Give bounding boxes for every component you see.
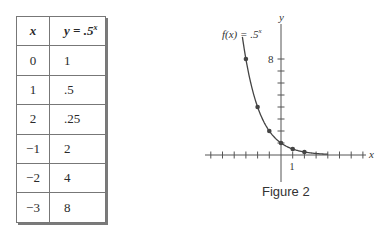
exponential-graph: y x 8 1 f(x) = .5x (0, 0, 392, 230)
y-tick-label-8: 8 (268, 53, 274, 65)
data-point (255, 105, 260, 110)
data-points (244, 57, 307, 155)
data-point (244, 57, 249, 62)
y-axis-label: y (278, 11, 284, 23)
data-point (279, 141, 284, 146)
x-axis-label: x (368, 148, 374, 160)
function-curve (242, 37, 327, 154)
data-point (302, 150, 307, 155)
function-label: f(x) = .5x (222, 27, 262, 41)
x-tick-label-1: 1 (290, 161, 295, 172)
data-point (267, 129, 272, 134)
figure-caption: Figure 2 (262, 184, 310, 199)
data-point (290, 147, 295, 152)
